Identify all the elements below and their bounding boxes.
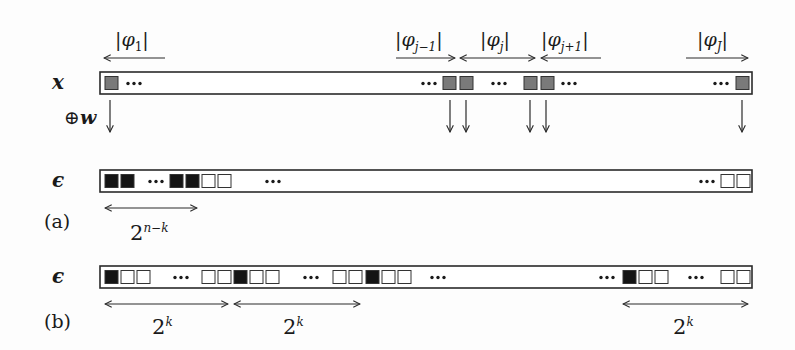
ellipsis-icon (688, 276, 703, 279)
row-label-x: x (52, 72, 64, 92)
white-cell (202, 271, 215, 284)
ellipsis-icon (599, 276, 614, 279)
white-cell (721, 271, 734, 284)
white-cell (333, 271, 346, 284)
ellipsis-icon (173, 276, 188, 279)
white-cell (721, 175, 734, 188)
segment-label-phi-j: |φj| (480, 30, 510, 53)
bit-vector-x (100, 72, 752, 94)
gray-cell (524, 77, 537, 90)
row-label-epsilon-b: ϵ (52, 266, 64, 286)
panel-label-a: (a) (44, 212, 70, 231)
ellipsis-icon (303, 276, 318, 279)
gray-cell (460, 77, 473, 90)
w-symbol: w (80, 106, 96, 128)
white-cell (737, 175, 750, 188)
white-cell (121, 271, 134, 284)
ellipsis-icon (148, 180, 163, 183)
oplus-icon: ⊕ (64, 106, 80, 128)
gray-cell (541, 77, 554, 90)
ellipsis-icon (265, 180, 280, 183)
gray-cell (736, 77, 749, 90)
white-cell (250, 271, 263, 284)
white-cell (655, 271, 668, 284)
segment-label-phi-j-minus-1: |φj−1| (395, 30, 443, 53)
white-cell (639, 271, 652, 284)
ellipsis-icon (421, 82, 436, 85)
black-cell (105, 271, 118, 284)
white-cell (202, 175, 215, 188)
black-cell (623, 271, 636, 284)
black-cell (121, 175, 134, 188)
white-cell (266, 271, 279, 284)
row-label-epsilon-a: ϵ (52, 170, 64, 190)
gray-cell (105, 77, 118, 90)
gray-cell (443, 77, 456, 90)
black-cell (366, 271, 379, 284)
segment-label-phi-J: |φJ| (697, 30, 728, 53)
xor-w-label: ⊕w (64, 108, 96, 127)
white-cell (218, 271, 231, 284)
ellipsis-icon (561, 82, 576, 85)
span-label-2-pow-k-2: 2k (283, 316, 304, 338)
ellipsis-icon (491, 82, 506, 85)
ellipsis-icon (126, 82, 141, 85)
white-cell (349, 271, 362, 284)
white-cell (398, 271, 411, 284)
span-label-2-pow-k-1: 2k (152, 316, 173, 338)
span-label-2-pow-n-minus-k: 2n−k (130, 222, 168, 244)
ellipsis-icon (699, 180, 714, 183)
white-cell (218, 175, 231, 188)
white-cell (737, 271, 750, 284)
ellipsis-icon (713, 82, 728, 85)
ellipsis-icon (430, 276, 445, 279)
black-cell (105, 175, 118, 188)
bit-vector-eps_b (100, 266, 752, 288)
span-label-2-pow-k-3: 2k (673, 316, 694, 338)
panel-label-b: (b) (44, 312, 71, 331)
black-cell (186, 175, 199, 188)
white-cell (137, 271, 150, 284)
black-cell (234, 271, 247, 284)
black-cell (170, 175, 183, 188)
segment-label-phi-j-plus-1: |φj+1| (541, 30, 589, 53)
segment-label-phi-1: |φ1| (115, 30, 149, 53)
white-cell (382, 271, 395, 284)
